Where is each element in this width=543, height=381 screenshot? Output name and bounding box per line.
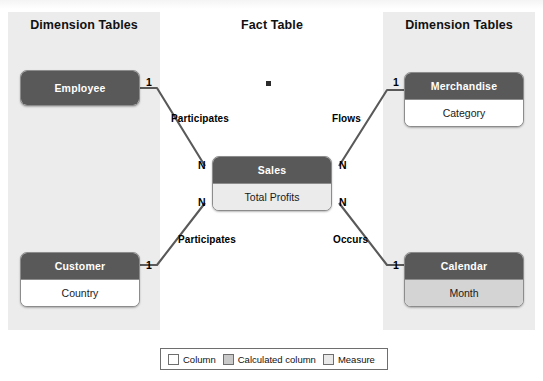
table-customer-field-country: Country — [21, 279, 139, 306]
table-sales-header: Sales — [213, 157, 331, 183]
cardinality-sales-merchandise-many: N — [339, 159, 347, 171]
legend: Column Calculated column Measure — [160, 348, 388, 370]
table-sales[interactable]: Sales Total Profits — [212, 156, 332, 211]
cardinality-sales-calendar-many: N — [339, 196, 347, 208]
cardinality-customer-one: 1 — [146, 259, 152, 271]
legend-swatch-measure-icon — [323, 354, 334, 365]
cardinality-sales-employee-many: N — [198, 159, 206, 171]
table-merchandise-header: Merchandise — [405, 73, 523, 99]
column-title-left-dimension: Dimension Tables — [8, 18, 160, 32]
relationship-label-employee-sales: Participates — [171, 113, 229, 124]
legend-item-measure: Measure — [323, 354, 375, 365]
table-calendar[interactable]: Calendar Month — [404, 252, 524, 307]
cardinality-employee-one: 1 — [146, 76, 152, 88]
table-employee[interactable]: Employee — [20, 70, 140, 106]
table-merchandise[interactable]: Merchandise Category — [404, 72, 524, 127]
cardinality-calendar-one: 1 — [393, 259, 399, 271]
relationship-label-calendar-sales: Occurs — [333, 234, 368, 245]
column-title-fact: Fact Table — [196, 18, 348, 32]
relationship-label-customer-sales: Participates — [178, 234, 236, 245]
cardinality-merchandise-one: 1 — [393, 76, 399, 88]
table-employee-header: Employee — [21, 71, 139, 105]
cardinality-sales-customer-many: N — [198, 196, 206, 208]
legend-label-calculated-column: Calculated column — [238, 354, 316, 365]
table-customer-header: Customer — [21, 253, 139, 279]
legend-item-column: Column — [168, 354, 216, 365]
relationship-label-merchandise-sales: Flows — [332, 113, 361, 124]
legend-label-measure: Measure — [338, 354, 375, 365]
diagram-canvas: Dimension Tables Fact Table Dimension Ta… — [0, 0, 543, 381]
table-merchandise-field-category: Category — [405, 99, 523, 126]
table-customer[interactable]: Customer Country — [20, 252, 140, 307]
legend-label-column: Column — [183, 354, 216, 365]
table-sales-field-total-profits: Total Profits — [213, 183, 331, 210]
table-calendar-header: Calendar — [405, 253, 523, 279]
legend-swatch-column-icon — [168, 354, 179, 365]
scan-artifact-dot — [266, 81, 271, 86]
legend-swatch-calculated-column-icon — [223, 354, 234, 365]
column-title-right-dimension: Dimension Tables — [383, 18, 535, 32]
table-calendar-field-month: Month — [405, 279, 523, 306]
legend-item-calculated-column: Calculated column — [223, 354, 316, 365]
